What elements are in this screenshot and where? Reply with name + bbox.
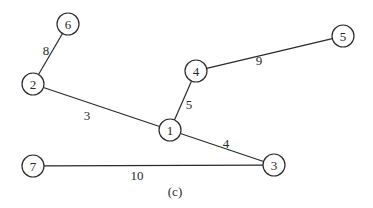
node-label: 4 [193, 64, 200, 79]
node-5: 5 [332, 25, 354, 47]
edge-weight-6-2: 8 [43, 43, 50, 58]
node-label: 3 [271, 158, 278, 173]
edge-weight-7-3: 10 [131, 168, 144, 183]
edge-7-3 [44, 165, 263, 166]
edge-weight-1-3: 4 [223, 136, 230, 151]
node-2: 2 [22, 73, 44, 95]
weighted-graph-diagram: 8359410 6245137 (c) [0, 0, 373, 208]
node-6: 6 [57, 13, 79, 35]
edge-weight-2-1: 3 [84, 108, 91, 123]
edge-2-1 [43, 88, 159, 127]
edge-weight-1-4: 5 [186, 97, 193, 112]
node-label: 5 [340, 29, 347, 44]
node-3: 3 [263, 154, 285, 176]
edge-weight-4-5: 9 [256, 53, 263, 68]
edge-4-5 [207, 39, 333, 69]
node-7: 7 [22, 155, 44, 177]
node-label: 7 [30, 159, 37, 174]
node-4: 4 [185, 60, 207, 82]
node-label: 2 [30, 77, 37, 92]
node-1: 1 [159, 119, 181, 141]
node-label: 6 [65, 17, 72, 32]
node-label: 1 [167, 123, 174, 138]
figure-caption: (c) [168, 184, 182, 199]
nodes-group: 6245137 [22, 13, 354, 177]
